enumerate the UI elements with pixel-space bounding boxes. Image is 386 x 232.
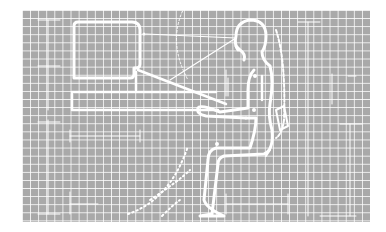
keyboard-sightline xyxy=(138,70,226,104)
dimension-lines xyxy=(38,20,362,216)
ergonomic-diagram xyxy=(0,0,386,232)
person xyxy=(198,20,273,216)
chair xyxy=(266,30,288,156)
leg-movement-arcs xyxy=(128,146,190,216)
line-of-sight xyxy=(146,4,236,80)
monitor xyxy=(74,22,146,78)
